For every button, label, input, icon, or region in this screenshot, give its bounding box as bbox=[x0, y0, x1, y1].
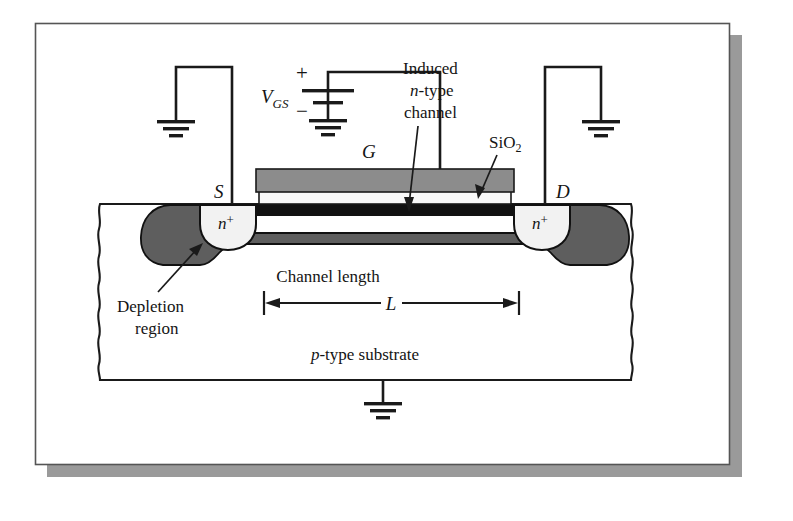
oxide-slab bbox=[259, 191, 511, 204]
gate-electrode bbox=[256, 169, 514, 192]
channel-length-symbol: L bbox=[385, 293, 397, 314]
channel-length-label: Channel length bbox=[276, 267, 380, 286]
mosfet-cross-section-figure: n+ n+ S bbox=[0, 0, 793, 521]
depletion-line1: Depletion bbox=[117, 297, 185, 316]
induced-channel-line3: channel bbox=[404, 103, 457, 122]
battery-plus-sign: + bbox=[296, 61, 308, 85]
source-label: S bbox=[214, 181, 224, 202]
substrate-label: p-type substrate bbox=[310, 345, 419, 364]
induced-channel-shape bbox=[242, 204, 548, 216]
gate-oxide-layer bbox=[259, 191, 511, 204]
battery-plate-short-1 bbox=[313, 101, 343, 104]
battery-plate-long-1 bbox=[302, 89, 354, 92]
substrate-label-group: p-type substrate bbox=[310, 345, 419, 364]
battery-minus-sign: − bbox=[296, 99, 308, 123]
induced-channel-line2: n-type bbox=[410, 81, 453, 100]
channel-core bbox=[242, 204, 548, 216]
drain-label: D bbox=[555, 181, 570, 202]
depletion-line2: region bbox=[135, 319, 179, 338]
figure-container: n+ n+ S bbox=[0, 0, 793, 521]
source-nplus-region: n+ bbox=[200, 205, 256, 250]
gate-slab bbox=[256, 169, 514, 192]
drain-nplus-region: n+ bbox=[514, 205, 570, 250]
gate-label: G bbox=[362, 141, 376, 162]
induced-channel-line1: Induced bbox=[403, 59, 458, 78]
